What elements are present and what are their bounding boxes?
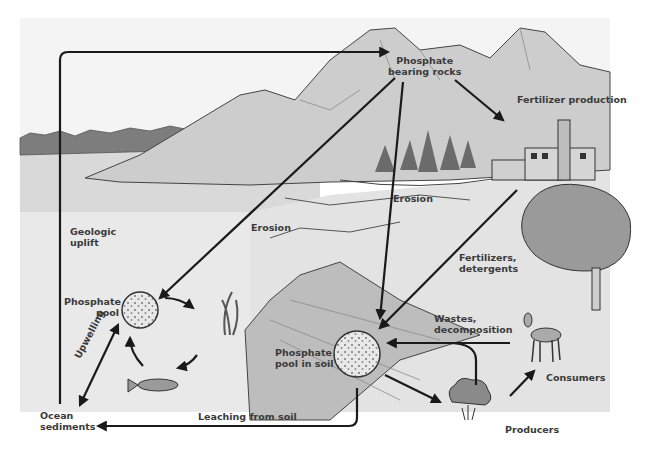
label-fertilizer-production: Fertilizer production	[517, 94, 627, 105]
label-phosphate-rocks: Phosphate bearing rocks	[388, 55, 461, 77]
label-phosphate-pool: Phosphate pool	[64, 296, 119, 318]
label-line: pool in soil	[275, 358, 333, 369]
label-line: bearing rocks	[388, 66, 461, 77]
label-ocean-sediments: Ocean sediments	[40, 410, 95, 432]
label-erosion-left: Erosion	[251, 222, 291, 233]
label-line: uplift	[70, 237, 116, 248]
label-fertilizers-detergents: Fertilizers, detergents	[459, 252, 518, 274]
label-line: Phosphate	[388, 55, 461, 66]
label-leaching: Leaching from soil	[198, 411, 297, 422]
phosphorus-cycle-diagram: Phosphate bearing rocks Fertilizer produ…	[0, 0, 655, 461]
label-wastes-decomposition: Wastes, decomposition	[434, 313, 513, 335]
label-line: sediments	[40, 421, 95, 432]
label-erosion-center: Erosion	[393, 193, 433, 204]
phosphate-pool-circle	[122, 292, 158, 328]
label-consumers: Consumers	[546, 372, 605, 383]
label-line: detergents	[459, 263, 518, 274]
label-line: Ocean	[40, 410, 95, 421]
shrub-producer	[449, 378, 491, 420]
phosphate-pool-soil-circle	[334, 331, 380, 377]
label-line: decomposition	[434, 324, 513, 335]
label-geologic-uplift: Geologic uplift	[70, 226, 116, 248]
label-line: Wastes,	[434, 313, 513, 324]
label-producers: Producers	[505, 424, 559, 435]
label-line: Geologic	[70, 226, 116, 237]
label-line: Phosphate	[275, 347, 333, 358]
label-line: Fertilizers,	[459, 252, 518, 263]
label-phosphate-pool-soil: Phosphate pool in soil	[275, 347, 333, 369]
label-line: Phosphate	[64, 296, 119, 307]
